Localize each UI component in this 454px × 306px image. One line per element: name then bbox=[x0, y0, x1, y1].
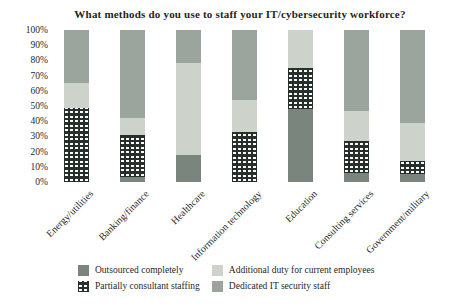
x-axis-label: Banking/finance bbox=[97, 188, 152, 243]
bar-banking-finance bbox=[120, 30, 145, 182]
bar-segment bbox=[120, 177, 145, 182]
bar-segment bbox=[400, 161, 425, 175]
y-tick-label: 10% bbox=[14, 162, 48, 172]
bar-segment bbox=[288, 30, 313, 68]
bar-segment bbox=[344, 30, 369, 111]
x-axis-label: Education bbox=[283, 188, 319, 224]
y-tick-label: 80% bbox=[14, 55, 48, 65]
legend-swatch-icon bbox=[212, 265, 223, 276]
legend-label: Outsourced completely bbox=[95, 265, 183, 275]
y-tick-label: 50% bbox=[14, 101, 48, 111]
bar-segment bbox=[400, 174, 425, 182]
bar-segment bbox=[176, 63, 201, 154]
legend-swatch-icon bbox=[212, 281, 223, 292]
bar-segment bbox=[288, 109, 313, 182]
x-axis-label: Energy/utilities bbox=[44, 188, 95, 239]
bar-government-military bbox=[400, 30, 425, 182]
bar-segment bbox=[232, 30, 257, 100]
bar-segment bbox=[176, 155, 201, 182]
bar-segment bbox=[176, 30, 201, 63]
y-tick-label: 90% bbox=[14, 40, 48, 50]
y-tick-label: 60% bbox=[14, 86, 48, 96]
legend-item: Outsourced completely bbox=[78, 262, 200, 278]
bar-segment bbox=[64, 108, 89, 182]
bar-segment bbox=[344, 173, 369, 182]
y-tick-label: 100% bbox=[14, 25, 48, 35]
bar-segment bbox=[120, 135, 145, 178]
legend: Outsourced completelyPartially consultan… bbox=[78, 262, 374, 294]
bar-segment bbox=[64, 83, 89, 107]
bar-education bbox=[288, 30, 313, 182]
staffing-methods-figure: What methods do you use to staff your IT… bbox=[0, 0, 454, 306]
bar-segment bbox=[232, 132, 257, 182]
y-tick-label: 20% bbox=[14, 147, 48, 157]
bar-segment bbox=[344, 111, 369, 141]
bar-consulting-services bbox=[344, 30, 369, 182]
y-tick-label: 70% bbox=[14, 71, 48, 81]
legend-item: Additional duty for current employees bbox=[212, 262, 375, 278]
x-axis-label: Consulting services bbox=[312, 188, 375, 251]
bar-healthcare bbox=[176, 30, 201, 182]
legend-item: Partially consultant staffing bbox=[78, 278, 200, 294]
bar-segment bbox=[120, 118, 145, 135]
legend-item: Dedicated IT security staff bbox=[212, 278, 375, 294]
legend-label: Dedicated IT security staff bbox=[229, 281, 330, 291]
legend-label: Partially consultant staffing bbox=[95, 281, 200, 291]
bar-segment bbox=[64, 30, 89, 83]
legend-swatch-icon bbox=[78, 265, 89, 276]
y-tick-label: 40% bbox=[14, 116, 48, 126]
legend-swatch-icon bbox=[78, 281, 89, 292]
bar-information-technology bbox=[232, 30, 257, 182]
bar-segment bbox=[400, 123, 425, 161]
bar-segment bbox=[120, 30, 145, 118]
bar-segment bbox=[232, 100, 257, 132]
bar-segment bbox=[344, 141, 369, 173]
chart-title: What methods do you use to staff your IT… bbox=[28, 8, 452, 20]
x-axis-label: Government/military bbox=[364, 188, 431, 255]
y-tick-label: 0% bbox=[14, 177, 48, 187]
legend-label: Additional duty for current employees bbox=[229, 265, 375, 275]
bar-energy-utilities bbox=[64, 30, 89, 182]
x-axis-label: Healthcare bbox=[169, 188, 207, 226]
bar-segment bbox=[400, 30, 425, 123]
bar-segment bbox=[288, 68, 313, 109]
y-tick-label: 30% bbox=[14, 131, 48, 141]
